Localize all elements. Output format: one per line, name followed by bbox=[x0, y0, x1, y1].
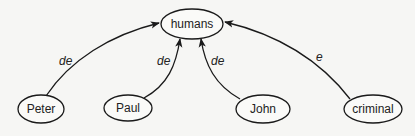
edge-john-humans bbox=[201, 39, 240, 99]
edge-label-paul: de bbox=[157, 54, 171, 68]
node-label-criminal: criminal bbox=[352, 102, 393, 116]
semantic-network-diagram: de de de e humans Peter Paul John crimin… bbox=[0, 0, 415, 136]
edge-label-peter: de bbox=[59, 54, 73, 68]
edge-criminal-humans bbox=[225, 22, 350, 99]
node-paul: Paul bbox=[104, 95, 152, 121]
node-john: John bbox=[236, 95, 290, 123]
node-label-peter: Peter bbox=[27, 102, 56, 116]
node-humans: humans bbox=[161, 9, 223, 39]
edge-paul-humans bbox=[144, 39, 180, 98]
node-label-john: John bbox=[250, 102, 276, 116]
node-label-humans: humans bbox=[171, 17, 214, 31]
node-label-paul: Paul bbox=[116, 101, 140, 115]
edge-label-john: de bbox=[211, 54, 225, 68]
edge-label-criminal: e bbox=[316, 50, 323, 64]
node-criminal: criminal bbox=[344, 95, 402, 123]
node-peter: Peter bbox=[18, 95, 64, 123]
